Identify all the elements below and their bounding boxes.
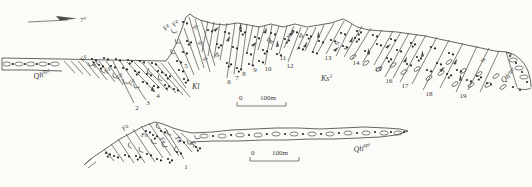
bed-line bbox=[423, 40, 449, 90]
dot-mark bbox=[316, 52, 318, 54]
dot-mark bbox=[232, 46, 234, 48]
gravel-ellipse bbox=[509, 58, 517, 62]
gravel-ellipse bbox=[344, 131, 352, 135]
bed-line bbox=[336, 24, 352, 56]
dot-mark bbox=[180, 61, 182, 63]
ore-body-numbers: 12345678910111213141516171819 bbox=[135, 54, 467, 171]
qh-bottom-label: Qhapl bbox=[353, 141, 372, 154]
dot-mark bbox=[310, 35, 312, 37]
fe-label: Fe bbox=[158, 135, 168, 146]
unit-number-2: 2 bbox=[135, 104, 139, 112]
gravel-ellipse bbox=[326, 132, 334, 136]
dot-mark bbox=[403, 131, 405, 133]
dot-mark bbox=[436, 62, 438, 64]
dot-mark bbox=[448, 77, 450, 79]
dot-mark bbox=[164, 131, 166, 133]
dot-mark bbox=[151, 62, 153, 64]
dot-mark bbox=[228, 32, 230, 34]
dot-mark bbox=[150, 154, 152, 156]
dot-mark bbox=[160, 159, 162, 161]
fe-label: Fe bbox=[119, 122, 130, 132]
bed-line bbox=[379, 32, 401, 70]
unit-number-12: 12 bbox=[287, 62, 295, 70]
dip-arrow-shaft bbox=[28, 20, 68, 22]
fe-label: Fe bbox=[174, 134, 184, 145]
dot-mark bbox=[358, 34, 360, 36]
dot-mark bbox=[356, 132, 358, 134]
clast-ellipse bbox=[499, 84, 507, 91]
dot-mark bbox=[396, 49, 398, 51]
dot-mark bbox=[380, 44, 382, 46]
gravel-ellipse bbox=[15, 62, 23, 66]
dot-mark bbox=[338, 132, 340, 134]
surface-line bbox=[517, 88, 531, 90]
geological-cross-section: 7° FeFeFeFeFeFeFeFeFeFeFeFeNNNNNNNN 1234… bbox=[0, 0, 532, 187]
flag-mark bbox=[225, 35, 233, 42]
dot-mark bbox=[298, 47, 300, 49]
dot-mark bbox=[182, 70, 184, 72]
unit-number-6: 6 bbox=[227, 78, 231, 86]
dot-mark bbox=[142, 81, 144, 83]
unit-number-11: 11 bbox=[280, 54, 287, 62]
dot-mark bbox=[156, 135, 158, 137]
n-mark: N bbox=[480, 56, 488, 63]
dot-mark bbox=[340, 32, 342, 34]
dot-mark bbox=[470, 80, 472, 82]
dot-mark bbox=[180, 152, 182, 154]
dot-mark bbox=[187, 79, 189, 81]
dot-mark bbox=[274, 33, 276, 35]
dot-mark bbox=[167, 158, 169, 160]
bed-line bbox=[88, 162, 96, 168]
dot-mark bbox=[113, 155, 115, 157]
dot-mark bbox=[114, 66, 116, 68]
gravel-ellipse bbox=[362, 131, 370, 135]
bed-line bbox=[71, 61, 83, 74]
dot-mark bbox=[478, 79, 480, 81]
unit-number-16: 16 bbox=[386, 77, 394, 85]
dot-mark bbox=[173, 88, 175, 90]
dot-mark bbox=[356, 41, 358, 43]
scale-zero-label: 0 bbox=[239, 94, 243, 102]
dot-mark bbox=[318, 40, 320, 42]
dot-mark bbox=[212, 135, 214, 137]
l-mark bbox=[171, 27, 177, 33]
clast-ellipse bbox=[475, 71, 483, 78]
clast-ellipse bbox=[445, 59, 453, 66]
dot-mark bbox=[157, 86, 159, 88]
dot-mark bbox=[107, 156, 109, 158]
dot-mark bbox=[286, 42, 288, 44]
dot-mark bbox=[185, 82, 187, 84]
scale-distance-label: 100m bbox=[272, 149, 289, 157]
gravel-ellipse bbox=[290, 132, 298, 136]
dot-mark bbox=[238, 71, 240, 73]
dot-mark bbox=[115, 58, 117, 60]
dot-mark bbox=[390, 58, 392, 60]
dot-mark bbox=[12, 63, 14, 65]
dot-mark bbox=[126, 68, 128, 70]
dot-mark bbox=[139, 156, 141, 158]
dot-mark bbox=[248, 134, 250, 136]
dot-mark bbox=[109, 153, 111, 155]
unit-number-15: 15 bbox=[375, 65, 383, 73]
figure-canvas: 7° FeFeFeFeFeFeFeFeFeFeFeFeNNNNNNNN 1234… bbox=[0, 0, 532, 187]
fe-label: Fe bbox=[126, 77, 136, 88]
bed-line bbox=[127, 62, 155, 92]
bed-line bbox=[84, 158, 92, 165]
bed-line bbox=[440, 43, 463, 88]
gravel-ellipse bbox=[254, 133, 262, 137]
dot-mark bbox=[236, 67, 238, 69]
dot-mark bbox=[107, 58, 109, 60]
dot-mark bbox=[434, 47, 436, 49]
dot-mark bbox=[131, 60, 133, 62]
dot-mark bbox=[356, 30, 358, 32]
dot-mark bbox=[136, 74, 138, 76]
dot-mark bbox=[236, 47, 238, 49]
dot-mark bbox=[515, 62, 517, 64]
dot-mark bbox=[48, 63, 50, 65]
dot-mark bbox=[149, 131, 151, 133]
dot-mark bbox=[103, 57, 105, 59]
flag-mark bbox=[274, 40, 281, 48]
dot-mark bbox=[224, 31, 226, 33]
dot-mark bbox=[394, 39, 396, 41]
dot-mark bbox=[360, 31, 362, 33]
